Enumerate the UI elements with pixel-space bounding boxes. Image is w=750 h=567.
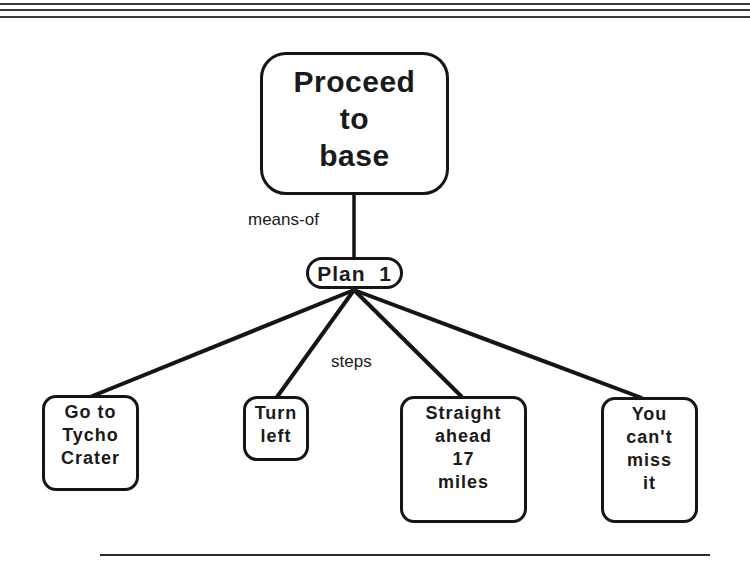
- step-line: Crater: [61, 447, 120, 470]
- step-node-1: Go to Tycho Crater: [42, 395, 139, 491]
- step-line: You: [632, 403, 668, 426]
- edge-label-steps: steps: [331, 352, 372, 372]
- goal-line: base: [319, 137, 389, 174]
- step-line: miles: [438, 471, 489, 494]
- plan-label: Plan 1: [317, 261, 392, 286]
- step-line: Tycho: [62, 424, 119, 447]
- footer-rule: [100, 554, 710, 556]
- step-line: Turn: [255, 402, 298, 425]
- edge-label-means-of: means-of: [248, 210, 319, 230]
- step-line: 17: [452, 448, 474, 471]
- plan-node: Plan 1: [306, 257, 403, 289]
- edge-step-3: [354, 290, 462, 397]
- goal-line: to: [340, 100, 369, 137]
- step-line: ahead: [435, 425, 492, 448]
- step-line: it: [643, 472, 656, 495]
- step-node-3: Straight ahead 17 miles: [400, 396, 527, 523]
- goal-line: Proceed: [294, 63, 416, 100]
- edge-step-4: [354, 290, 642, 398]
- step-node-4: You can't miss it: [601, 397, 698, 523]
- goal-node-proceed-to-base: Proceed to base: [260, 52, 449, 195]
- step-line: can't: [626, 426, 672, 449]
- step-line: miss: [627, 449, 672, 472]
- step-node-2: Turn left: [243, 396, 309, 461]
- step-line: Go to: [65, 401, 117, 424]
- step-line: left: [261, 425, 292, 448]
- step-line: Straight: [425, 402, 501, 425]
